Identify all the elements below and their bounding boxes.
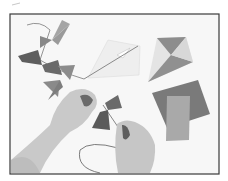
photo [0,0,228,181]
